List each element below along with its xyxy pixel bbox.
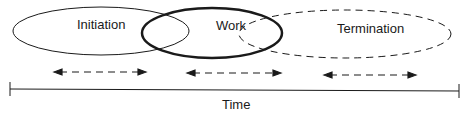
duration-arrow-termination (324, 72, 416, 78)
work-label: Work (216, 18, 246, 33)
duration-arrow-work (187, 70, 281, 76)
termination-label: Termination (337, 21, 404, 36)
time-axis (10, 82, 459, 98)
duration-arrow-initiation (54, 69, 146, 75)
time-axis-label: Time (222, 97, 250, 112)
initiation-label: Initiation (77, 17, 125, 32)
work-ellipse (142, 8, 282, 58)
